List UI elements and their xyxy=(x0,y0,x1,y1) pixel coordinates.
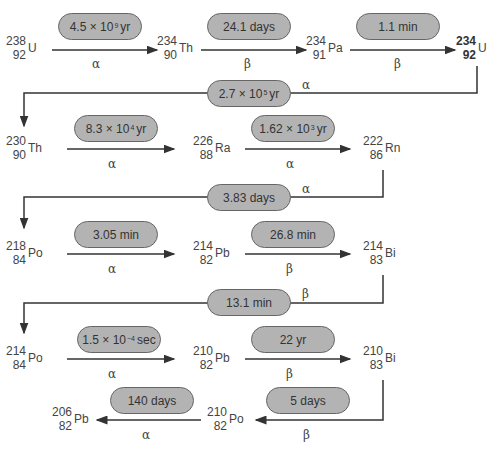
decay-mode-label: β xyxy=(286,262,293,276)
nuclide-pb206: 20682Pb xyxy=(50,405,98,439)
nuclide-rn222: 22286Rn xyxy=(361,134,409,168)
half-life-pill-pb210: 22 yr xyxy=(251,326,335,353)
decay-mode-label: β xyxy=(302,287,309,301)
half-life-pill-rn222: 3.83 days xyxy=(207,184,291,211)
nuclide-th234: 23490Th xyxy=(155,34,203,68)
nuclide-po210: 21082Po xyxy=(205,405,253,439)
decay-mode-label: α xyxy=(142,428,150,442)
half-life-pill-ra226: 1.62 × 103yr xyxy=(251,115,335,142)
half-life-pill-po214: 1.5 × 10−4sec xyxy=(77,326,161,353)
nuclide-bi214: 21483Bi xyxy=(361,239,409,273)
half-life-pill-bi210: 5 days xyxy=(266,387,350,414)
decay-mode-label: α xyxy=(108,367,116,381)
half-life-pill-u238: 4.5 × 109yr xyxy=(58,13,142,40)
half-life-pill-u234: 2.7 × 105yr xyxy=(207,80,291,107)
half-life-pill-po218: 3.05 min xyxy=(74,221,158,248)
nuclide-th230: 23090Th xyxy=(4,134,52,168)
decay-mode-label: α xyxy=(302,182,310,196)
nuclide-bi210: 21083Bi xyxy=(361,344,409,378)
decay-mode-label: β xyxy=(394,57,401,71)
half-life-pill-th234: 24.1 days xyxy=(207,13,291,40)
decay-mode-label: β xyxy=(303,428,310,442)
decay-mode-label: α xyxy=(92,57,100,71)
half-life-pill-th230: 8.3 × 104yr xyxy=(74,115,158,142)
decay-mode-label: α xyxy=(108,157,116,171)
decay-mode-label: α xyxy=(108,262,116,276)
nuclide-ra226: 22688Ra xyxy=(191,134,239,168)
half-life-pill-po210: 140 days xyxy=(110,387,194,414)
decay-mode-label: β xyxy=(244,57,251,71)
nuclide-u234: 23492U xyxy=(454,34,498,68)
decay-mode-label: α xyxy=(286,157,294,171)
nuclide-pb214: 21482Pb xyxy=(191,239,239,273)
nuclide-pa234: 23491Pa xyxy=(304,34,352,68)
nuclide-u238: 23892U xyxy=(4,34,52,68)
half-life-pill-bi214: 13.1 min xyxy=(207,289,291,316)
nuclide-pb210: 21082Pb xyxy=(191,344,239,378)
nuclide-po214: 21484Po xyxy=(4,344,52,378)
decay-mode-label: β xyxy=(286,367,293,381)
decay-mode-label: α xyxy=(302,78,310,92)
nuclide-po218: 21884Po xyxy=(4,239,52,273)
half-life-pill-pa234: 1.1 min xyxy=(356,13,440,40)
half-life-pill-pb214: 26.8 min xyxy=(251,221,335,248)
